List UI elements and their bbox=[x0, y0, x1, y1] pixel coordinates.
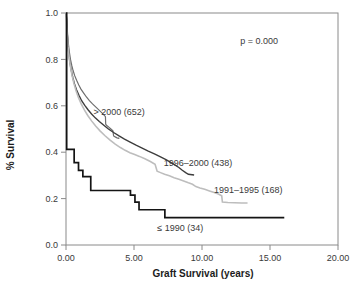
y-tick-label: 0.0 bbox=[45, 240, 58, 250]
chart-canvas: 0.00.20.40.60.81.0 0.005.0010.0015.0020.… bbox=[0, 0, 361, 294]
curve-series-label: 1991–1995 (168) bbox=[214, 185, 283, 195]
curve-series-label: > 2000 (652) bbox=[93, 107, 144, 117]
survival-curve bbox=[66, 13, 119, 138]
x-axis-title: Graft Survival (years) bbox=[152, 268, 253, 279]
plot-border bbox=[66, 13, 338, 245]
survival-curve bbox=[66, 13, 194, 175]
x-tick-label: 5.00 bbox=[125, 253, 143, 263]
x-tick-label: 0.00 bbox=[57, 253, 75, 263]
curve-labels: > 2000 (652)1996–2000 (438)1991–1995 (16… bbox=[93, 107, 282, 234]
p-value-annotation: p = 0.000 bbox=[240, 36, 278, 46]
plot-frame bbox=[66, 13, 338, 245]
y-axis-ticks: 0.00.20.40.60.81.0 bbox=[45, 8, 66, 250]
x-tick-label: 10.00 bbox=[191, 253, 214, 263]
y-tick-label: 0.2 bbox=[45, 194, 58, 204]
survival-chart-figure: 0.00.20.40.60.81.0 0.005.0010.0015.0020.… bbox=[0, 0, 361, 294]
y-tick-label: 0.6 bbox=[45, 101, 58, 111]
curve-series-label: 1996–2000 (438) bbox=[164, 158, 233, 168]
curve-series-label: ≤ 1990 (34) bbox=[157, 223, 203, 233]
x-axis-ticks: 0.005.0010.0015.0020.00 bbox=[57, 245, 349, 263]
x-tick-label: 15.00 bbox=[259, 253, 282, 263]
y-tick-label: 1.0 bbox=[45, 8, 58, 18]
y-axis-title: % Survival bbox=[5, 119, 16, 170]
x-tick-label: 20.00 bbox=[327, 253, 350, 263]
y-tick-label: 0.4 bbox=[45, 147, 58, 157]
y-tick-label: 0.8 bbox=[45, 55, 58, 65]
